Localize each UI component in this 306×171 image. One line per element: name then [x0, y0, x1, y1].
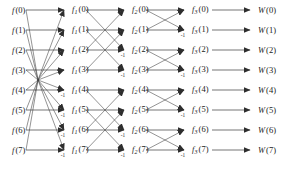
gain-label-stage-3-row7: -1	[181, 153, 185, 158]
gain-label-stage-1-row4: -1	[61, 93, 65, 98]
node-stage-2-output-5: f2(5)	[132, 105, 148, 115]
node-input-6: f(6)	[12, 126, 25, 135]
node-input-4: f(4)	[12, 86, 25, 95]
node-input-0: f(0)	[12, 6, 25, 15]
gain-label-stage-3-row5: -1	[181, 113, 185, 118]
node-stage-3-output-2: f3(2)	[192, 45, 208, 55]
node-output-2: W(2)	[258, 46, 276, 55]
node-stage-1-output-4: f1(4)	[72, 85, 88, 95]
node-stage-3-output-0: f3(0)	[192, 5, 208, 15]
node-input-7: f(7)	[12, 146, 25, 155]
node-input-2: f(2)	[12, 46, 25, 55]
node-stage-2-output-3: f2(3)	[132, 65, 148, 75]
gain-label-stage-1-row5: -1	[61, 113, 65, 118]
node-output-7: W(7)	[258, 146, 276, 155]
gain-label-stage-1-row7: -1	[61, 153, 65, 158]
node-output-6: W(6)	[258, 126, 276, 135]
gain-label-stage-2-row3: -1	[121, 73, 125, 78]
node-stage-3-output-6: f3(6)	[192, 125, 208, 135]
node-stage-1-output-6: f1(6)	[72, 125, 88, 135]
node-stage-1-output-3: f1(3)	[72, 65, 88, 75]
node-stage-1-output-0: f1(0)	[72, 5, 88, 15]
node-stage-2-output-6: f2(6)	[132, 125, 148, 135]
node-output-3: W(3)	[258, 66, 276, 75]
node-stage-2-output-1: f2(1)	[132, 25, 148, 35]
node-stage-3-output-5: f3(5)	[192, 105, 208, 115]
fft-flow-graph: f(0)f(1)f(2)f(3)f(4)f(5)f(6)f(7)f1(0)f1(…	[0, 0, 306, 171]
node-stage-3-output-7: f3(7)	[192, 145, 208, 155]
node-input-3: f(3)	[12, 66, 25, 75]
node-output-1: W(1)	[258, 26, 276, 35]
gain-label-stage-2-row6: -1	[121, 133, 125, 138]
node-stage-2-output-0: f2(0)	[132, 5, 148, 15]
node-stage-2-output-7: f2(7)	[132, 145, 148, 155]
node-stage-1-output-5: f1(5)	[72, 105, 88, 115]
gain-label-stage-3-row3: -1	[181, 73, 185, 78]
node-output-4: W(4)	[258, 86, 276, 95]
gain-label-stage-2-row7: -1	[121, 153, 125, 158]
node-stage-3-output-1: f3(1)	[192, 25, 208, 35]
node-input-1: f(1)	[12, 26, 25, 35]
node-output-0: W(0)	[258, 6, 276, 15]
node-output-5: W(5)	[258, 106, 276, 115]
node-stage-2-output-2: f2(2)	[132, 45, 148, 55]
node-input-5: f(5)	[12, 106, 25, 115]
node-stage-1-output-7: f1(7)	[72, 145, 88, 155]
node-stage-2-output-4: f2(4)	[132, 85, 148, 95]
node-stage-3-output-3: f3(3)	[192, 65, 208, 75]
node-stage-1-output-1: f1(1)	[72, 25, 88, 35]
gain-label-stage-2-row2: -1	[121, 53, 125, 58]
gain-label-stage-1-row6: -1	[61, 133, 65, 138]
node-stage-1-output-2: f1(2)	[72, 45, 88, 55]
node-stage-3-output-4: f3(4)	[192, 85, 208, 95]
gain-label-stage-3-row1: -1	[181, 33, 185, 38]
